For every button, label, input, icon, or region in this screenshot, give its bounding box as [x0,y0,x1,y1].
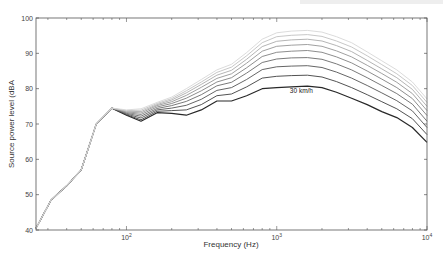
x-tick-label: 103 [271,232,282,241]
y-tick-label: 80 [25,85,33,92]
x-tick-label: 102 [121,232,132,241]
series-annotation: 30 km/h [290,87,314,94]
y-tick-label: 70 [25,121,33,128]
series-line [36,35,427,229]
y-tick-label: 60 [25,156,33,163]
annotations: 30 km/h [290,87,314,94]
x-axis-label: Frequency (Hz) [203,240,258,249]
y-axis-label: Source power level (dBA [7,79,16,168]
line-chart: 405060708090100102103104 Frequency (Hz) … [0,0,443,261]
series-line [36,75,427,228]
series-lines [36,30,427,228]
y-tick-label: 40 [25,227,33,234]
y-tick-label: 100 [21,15,33,22]
y-tick-label: 50 [25,191,33,198]
series-line [36,58,427,229]
series-line [36,30,427,228]
x-tick-label: 104 [422,232,433,241]
axis-labels: Frequency (Hz) Source power level (dBA [7,79,259,249]
series-line [36,86,427,228]
series-line [36,51,427,229]
axes: 405060708090100102103104 [21,15,432,242]
y-tick-label: 90 [25,50,33,57]
series-line [36,66,427,229]
